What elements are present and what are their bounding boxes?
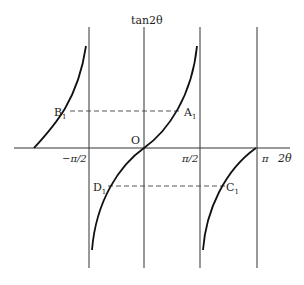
curve-branch-right — [203, 148, 256, 250]
point-label-D1: D1 — [93, 181, 106, 196]
y-axis-label: tan2θ — [131, 14, 163, 27]
tan-2theta-diagram: tan2θ 2θ O −π/2 π/2 π B1 A1 D1 C1 — [0, 0, 304, 285]
point-label-A1: A1 — [183, 106, 196, 121]
tick-label-half-pi: π/2 — [181, 153, 198, 164]
x-axis-label: 2θ — [277, 152, 292, 165]
tick-label-neg-half-pi: −π/2 — [62, 153, 87, 164]
curve-branch-left — [34, 46, 86, 148]
point-label-C1: C1 — [226, 181, 239, 196]
origin-label: O — [131, 134, 140, 147]
tick-label-pi: π — [261, 153, 269, 164]
